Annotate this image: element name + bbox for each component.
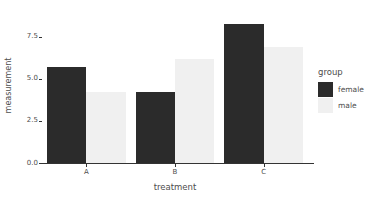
y-axis-tick-label: 5.0 [18,75,38,82]
legend-swatch-female [318,82,333,97]
legend: group femalemale [318,68,364,114]
y-axis-tick-label: 7.5 [18,33,38,40]
y-axis-title: measurement [2,0,16,170]
x-axis-tick-mark [175,164,176,167]
y-axis-tick-label: 2.5 [18,117,38,124]
plot-panel [42,8,308,163]
bar-A-female [47,67,86,163]
bar-C-male [264,47,303,163]
legend-swatch-male [318,98,333,113]
x-axis-title: treatment [42,182,308,192]
bar-B-male [175,59,214,163]
bar-B-female [136,92,175,163]
x-axis-tick-label-A: A [71,169,101,176]
y-axis-tick-label: 0.0 [18,160,38,167]
bar-A-male [86,92,125,163]
y-axis-title-text: measurement [5,57,14,113]
bar-chart: measurement 0.02.55.07.5 ABC treatment g… [0,0,377,203]
x-axis-tick-mark [86,164,87,167]
y-axis-tick-labels: 0.02.55.07.5 [16,0,38,203]
bar-C-female [224,24,263,163]
legend-item-male[interactable]: male [318,98,364,114]
x-axis-tick-mark [264,164,265,167]
legend-label-female: female [338,86,364,94]
x-axis-tick-label-C: C [249,169,279,176]
legend-entries: femalemale [318,82,364,114]
legend-label-male: male [338,102,357,110]
legend-title: group [318,68,364,77]
x-axis-tick-label-B: B [160,169,190,176]
legend-item-female[interactable]: female [318,82,364,98]
x-axis-line [42,163,314,164]
